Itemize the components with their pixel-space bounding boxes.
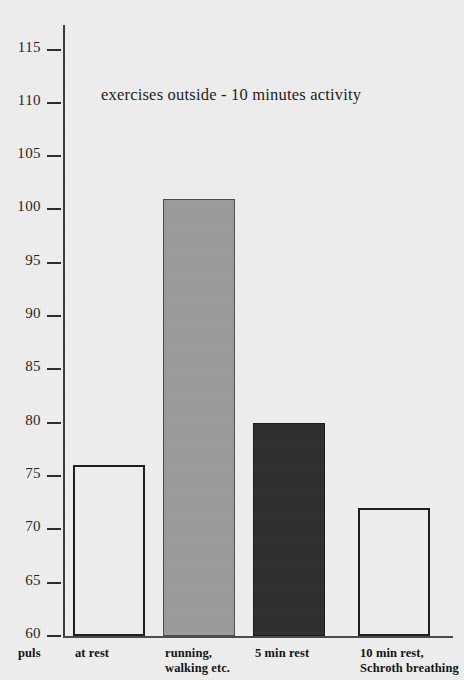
y-axis-tick-label: 105 bbox=[17, 145, 41, 162]
y-axis-tick-mark bbox=[47, 262, 61, 264]
x-axis-category-label: running, walking etc. bbox=[165, 646, 230, 676]
y-axis-tick-label: 115 bbox=[18, 39, 41, 56]
y-axis-tick-mark bbox=[47, 368, 61, 370]
y-axis-line bbox=[63, 25, 65, 637]
y-axis-tick-mark bbox=[47, 528, 61, 530]
y-axis-tick-mark bbox=[47, 582, 61, 584]
x-axis-category-label: at rest bbox=[75, 646, 109, 661]
y-axis-tick-label: 95 bbox=[25, 252, 41, 269]
y-axis-tick-label: 75 bbox=[25, 465, 41, 482]
y-axis-tick-mark bbox=[47, 422, 61, 424]
y-axis-tick-label: 90 bbox=[25, 305, 41, 322]
y-axis-tick-mark bbox=[47, 155, 61, 157]
bar bbox=[253, 423, 325, 636]
y-axis-tick-label: 85 bbox=[25, 358, 41, 375]
y-axis-tick-mark bbox=[47, 315, 61, 317]
bar bbox=[163, 199, 235, 636]
bar bbox=[73, 465, 145, 636]
y-axis-tick-label: 60 bbox=[25, 625, 41, 642]
y-axis-tick-mark bbox=[47, 102, 61, 104]
y-axis-tick-label: 100 bbox=[17, 198, 41, 215]
chart-title: exercises outside - 10 minutes activity bbox=[101, 85, 361, 105]
y-axis-tick-label: 110 bbox=[18, 92, 41, 109]
y-axis-tick-mark bbox=[47, 49, 61, 51]
y-axis-tick-mark bbox=[47, 635, 61, 637]
x-axis-baseline bbox=[63, 636, 453, 638]
bar bbox=[358, 508, 430, 636]
x-axis-category-label: 5 min rest bbox=[255, 646, 309, 661]
y-axis-tick-label: 65 bbox=[25, 572, 41, 589]
y-axis-unit-label: puls bbox=[18, 646, 41, 661]
x-axis-category-label: 10 min rest, Schroth breathing bbox=[360, 646, 459, 676]
y-axis-tick-mark bbox=[47, 208, 61, 210]
y-axis-tick-label: 70 bbox=[25, 518, 41, 535]
y-axis-tick-mark bbox=[47, 475, 61, 477]
bar-chart-figure: 6065707580859095100105110115 exercises o… bbox=[0, 0, 464, 680]
y-axis-tick-label: 80 bbox=[25, 412, 41, 429]
